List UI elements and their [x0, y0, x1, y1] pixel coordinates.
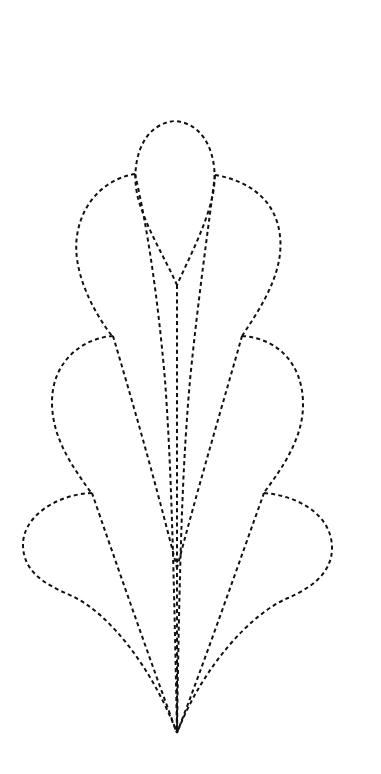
left-middle-vein	[113, 336, 177, 568]
middle-right-lobe	[242, 336, 303, 494]
right-outer-vein	[177, 175, 215, 733]
upper-left-lobe	[76, 174, 135, 336]
middle-left-lobe	[52, 336, 113, 494]
left-outer-vein	[135, 174, 177, 733]
right-middle-vein	[177, 336, 242, 568]
left-lower-vein	[92, 493, 177, 733]
top-teardrop-petal	[135, 121, 214, 285]
stencil-canvas: Dashed-outline leaf/feather stencil patt…	[0, 0, 381, 774]
lower-right-lobe	[177, 493, 332, 733]
leaf-stencil-drawing	[0, 0, 381, 774]
right-lower-vein	[177, 493, 264, 733]
upper-right-lobe	[215, 175, 280, 336]
lower-left-lobe	[23, 493, 177, 733]
